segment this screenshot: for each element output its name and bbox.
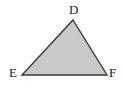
triangle-shape — [0, 0, 123, 87]
vertex-label-e: E — [9, 66, 17, 79]
vertex-label-d: D — [69, 3, 78, 16]
vertex-label-f: F — [109, 66, 116, 79]
geometry-figure: D E F — [0, 0, 123, 87]
triangle-polygon — [22, 20, 107, 75]
